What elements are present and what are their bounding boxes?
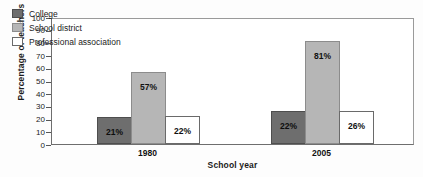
- y-axis-tick-label: 40: [21, 90, 45, 99]
- y-axis-tick-label: 30: [21, 102, 45, 111]
- x-axis-title: School year: [51, 160, 414, 170]
- legend-item: College: [12, 7, 121, 20]
- x-axis-category-label: 2005: [292, 148, 352, 158]
- legend-item: School district: [12, 21, 121, 34]
- y-axis-tick-label: 70: [21, 52, 45, 61]
- legend-item-label: School district: [29, 23, 82, 33]
- y-axis-tick-label: 60: [21, 64, 45, 73]
- bar-value-label: 22%: [166, 126, 199, 136]
- bar-chart: Percentage of teachers 10090807060504030…: [0, 0, 423, 177]
- bar-value-label: 22%: [272, 121, 305, 131]
- legend-item-label: College: [29, 9, 58, 19]
- legend-swatch-icon: [12, 37, 23, 46]
- y-axis-tick-label: 10: [21, 128, 45, 137]
- y-axis-tick-label: 20: [21, 115, 45, 124]
- bar: 81%: [305, 41, 340, 144]
- bar-value-label: 21%: [98, 127, 131, 137]
- y-axis-tick-label: 0: [21, 141, 45, 150]
- bar: 22%: [271, 111, 306, 144]
- bar-value-label: 26%: [340, 121, 373, 131]
- chart-legend: CollegeSchool districtProfessional assoc…: [12, 5, 121, 49]
- legend-swatch-icon: [12, 9, 23, 18]
- legend-item-label: Professional association: [29, 37, 121, 47]
- bar-value-label: 81%: [306, 51, 339, 61]
- legend-item: Professional association: [12, 35, 121, 48]
- y-axis-tick-label: 50: [21, 77, 45, 86]
- bar: 21%: [97, 117, 132, 144]
- y-axis-tick-mark: [46, 145, 51, 146]
- bar: 22%: [165, 116, 200, 144]
- legend-swatch-icon: [12, 23, 23, 32]
- bar: 57%: [131, 72, 166, 144]
- x-axis-category-label: 1980: [118, 148, 178, 158]
- bar: 26%: [339, 111, 374, 144]
- bar-value-label: 57%: [132, 82, 165, 92]
